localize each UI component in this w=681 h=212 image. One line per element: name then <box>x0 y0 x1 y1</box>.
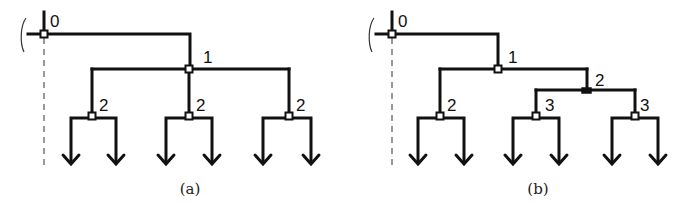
brace-icon <box>21 18 26 52</box>
label-b-3a: 3 <box>545 96 554 115</box>
caption-a: (a) <box>180 180 201 198</box>
node-b-0 <box>389 31 396 38</box>
node-b-1 <box>495 66 502 73</box>
node-a-0 <box>41 31 48 38</box>
caption-b: (b) <box>527 180 548 198</box>
leaf-group-a2 <box>158 118 220 164</box>
node-a-2b <box>186 113 193 120</box>
label-a-1: 1 <box>203 48 212 67</box>
label-b-2a: 2 <box>447 96 456 115</box>
leaf-group-b3 <box>604 118 666 164</box>
edge-n0-n1 <box>44 34 190 69</box>
label-a-2a: 2 <box>99 96 108 115</box>
panel-b: 0 1 2 2 3 3 (b) <box>369 12 666 198</box>
label-a-0: 0 <box>50 12 59 31</box>
node-b-3a <box>533 113 540 120</box>
node-b-2b <box>582 88 591 93</box>
node-a-1 <box>186 66 193 73</box>
node-b-2a <box>437 113 444 120</box>
leaf-group-a1 <box>63 118 124 164</box>
leaf-group-a3 <box>255 118 319 164</box>
node-a-2c <box>286 113 293 120</box>
label-b-1: 1 <box>508 48 517 67</box>
tree-diagram-figure: 0 1 2 2 2 (a) <box>0 0 681 212</box>
edge-n0-n1 <box>392 34 498 69</box>
leaf-group-b1 <box>410 118 472 164</box>
label-b-0: 0 <box>398 12 407 31</box>
brace-icon <box>369 18 374 52</box>
label-b-2b: 2 <box>595 71 604 90</box>
leaf-group-b2 <box>505 118 567 164</box>
panel-a: 0 1 2 2 2 (a) <box>21 12 319 198</box>
node-a-2a <box>89 113 96 120</box>
label-a-2b: 2 <box>196 96 205 115</box>
node-b-3b <box>632 113 639 120</box>
label-b-3b: 3 <box>640 96 649 115</box>
label-a-2c: 2 <box>296 96 305 115</box>
